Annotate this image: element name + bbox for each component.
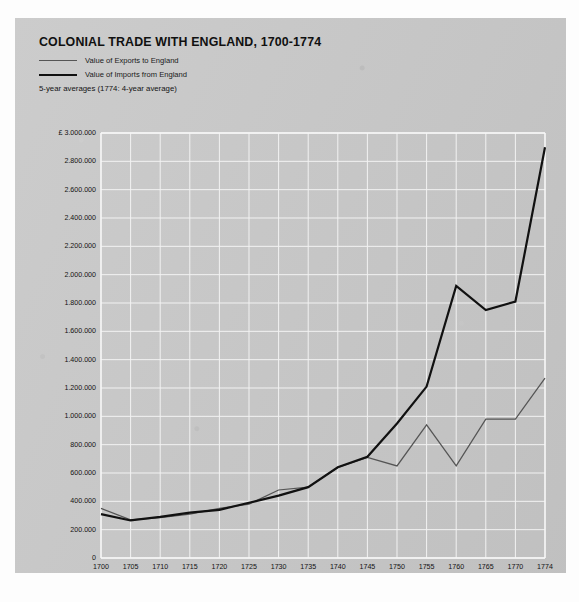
figure-card: COLONIAL TRADE WITH ENGLAND, 1700-1774 V… [15,18,566,573]
y-axis-tick-label: 1.800.000 [64,299,96,307]
page-root: COLONIAL TRADE WITH ENGLAND, 1700-1774 V… [0,0,579,602]
line-chart-svg [101,133,545,558]
chart-legend: Value of Exports to England Value of Imp… [39,56,321,79]
x-axis-tick-label: 1705 [123,563,139,571]
x-axis-tick-label: 1730 [271,563,287,571]
y-axis-tick-label: 2.200.000 [64,242,96,250]
x-axis-tick-label: 1700 [93,563,109,571]
y-axis-tick-label: 600.000 [70,469,96,477]
x-axis-tick-label: 1725 [241,563,257,571]
grid-lines [101,133,545,558]
x-axis-tick-label: 1760 [448,563,464,571]
legend-label-exports: Value of Exports to England [85,56,179,65]
y-axis-tick-label: 2.800.000 [64,157,96,165]
y-axis-tick-label: 0 [92,554,96,562]
x-axis-tick-label: 1750 [389,563,405,571]
y-axis-tick-label: 2.400.000 [64,214,96,222]
y-axis-tick-label: 1.600.000 [64,327,96,335]
x-axis-tick-label: 1710 [152,563,168,571]
x-axis-tick-label: 1715 [182,563,198,571]
series-lines [101,147,545,520]
y-axis-tick-label: 1.400.000 [64,356,96,364]
x-axis-tick-label: 1740 [330,563,346,571]
chart-header: COLONIAL TRADE WITH ENGLAND, 1700-1774 V… [39,35,321,93]
chart-subnote: 5-year averages (1774: 4-year average) [39,84,321,93]
y-axis-tick-label: 800.000 [70,441,96,449]
x-axis-tick-label: 1735 [300,563,316,571]
legend-label-imports: Value of Imports from England [85,70,187,79]
legend-line-exports-icon [39,60,77,61]
x-axis-tick-label: 1720 [212,563,228,571]
y-axis-labels: £ 3.000.0002.800.0002.600.0002.400.0002.… [15,133,96,558]
plot-area [101,133,545,558]
x-axis-tick-label: 1755 [419,563,435,571]
y-axis-tick-label: £ 3.000.000 [59,129,96,137]
legend-item-imports: Value of Imports from England [39,70,321,79]
y-axis-tick-label: 200.000 [70,526,96,534]
y-axis-tick-label: 2.600.000 [64,186,96,194]
y-axis-tick-label: 2.000.000 [64,271,96,279]
y-axis-tick-label: 1.200.000 [64,384,96,392]
x-axis-tick-label: 1765 [478,563,494,571]
x-axis-labels: 1700170517101715172017251730173517401745… [101,563,545,577]
axis-frame [101,133,545,558]
series-line-imports [101,147,545,520]
page-title: COLONIAL TRADE WITH ENGLAND, 1700-1774 [39,35,321,49]
series-line-exports [101,378,545,520]
x-axis-tick-label: 1770 [508,563,524,571]
x-axis-tick-label: 1774 [537,563,553,571]
legend-item-exports: Value of Exports to England [39,56,321,65]
legend-line-imports-icon [39,74,77,76]
y-axis-tick-label: 1.000.000 [64,412,96,420]
y-axis-tick-label: 400.000 [70,497,96,505]
x-axis-tick-label: 1745 [360,563,376,571]
